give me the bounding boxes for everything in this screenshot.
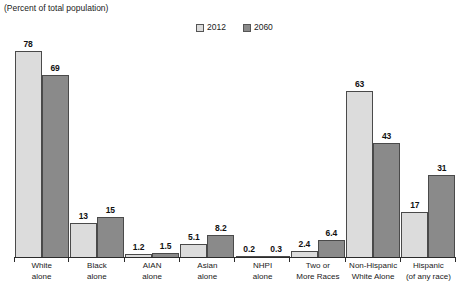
plot-area: 786913151.21.55.18.20.20.32.46.463431731 bbox=[14, 40, 456, 258]
bar-group: 1731 bbox=[401, 175, 456, 257]
bar-value-label: 43 bbox=[382, 132, 391, 141]
bar-value-label: 78 bbox=[23, 40, 32, 49]
bar-column: 5.1 bbox=[180, 244, 207, 257]
bar[interactable] bbox=[291, 251, 318, 257]
legend-item-2060: 2060 bbox=[243, 23, 273, 32]
bar-column: 8.2 bbox=[207, 235, 234, 257]
bar-column: 69 bbox=[42, 75, 69, 257]
bar-group: 1315 bbox=[69, 217, 124, 257]
bar[interactable] bbox=[318, 240, 345, 257]
bar[interactable] bbox=[401, 212, 428, 257]
bar-value-label: 1.5 bbox=[160, 242, 172, 251]
x-axis-label: Hispanic(of any race) bbox=[401, 261, 456, 282]
bar[interactable] bbox=[236, 256, 263, 258]
bar[interactable] bbox=[97, 217, 124, 257]
bar-column: 17 bbox=[401, 212, 428, 257]
x-axis-label: Whitealone bbox=[14, 261, 69, 282]
bar-column: 1.2 bbox=[125, 254, 152, 257]
bar-value-label: 8.2 bbox=[215, 224, 227, 233]
bar-group: 2.46.4 bbox=[290, 240, 345, 257]
bar-column: 0.3 bbox=[263, 256, 290, 258]
bar[interactable] bbox=[70, 223, 97, 257]
bar-value-label: 31 bbox=[437, 164, 446, 173]
bar-value-label: 17 bbox=[410, 201, 419, 210]
bar-value-label: 0.2 bbox=[243, 245, 255, 254]
bar-column: 63 bbox=[346, 91, 373, 257]
bar-column: 15 bbox=[97, 217, 124, 257]
bar-value-label: 5.1 bbox=[188, 233, 200, 242]
legend-swatch-2060 bbox=[243, 24, 251, 32]
bar[interactable] bbox=[373, 143, 400, 257]
bar-group: 6343 bbox=[346, 91, 401, 257]
x-axis-label: Non-HispanicWhite Alone bbox=[346, 261, 401, 282]
x-axis-label: NHPIalone bbox=[235, 261, 290, 282]
bar-column: 1.5 bbox=[152, 253, 179, 257]
bar-column: 2.4 bbox=[291, 251, 318, 257]
bar-column: 6.4 bbox=[318, 240, 345, 257]
bar[interactable] bbox=[15, 51, 42, 257]
x-axis-labels: WhitealoneBlackaloneAIANaloneAsianaloneN… bbox=[14, 261, 456, 289]
bar-value-label: 63 bbox=[355, 80, 364, 89]
legend-label-2060: 2060 bbox=[254, 23, 273, 32]
bar-value-label: 15 bbox=[106, 206, 115, 215]
legend-label-2012: 2012 bbox=[207, 23, 226, 32]
bar[interactable] bbox=[152, 253, 179, 257]
bar[interactable] bbox=[263, 256, 290, 258]
chart-legend: 2012 2060 bbox=[196, 23, 273, 32]
x-axis-label: Two orMore Races bbox=[290, 261, 345, 282]
bar[interactable] bbox=[180, 244, 207, 257]
x-axis-label: Blackalone bbox=[69, 261, 124, 282]
bar-group: 1.21.5 bbox=[125, 253, 180, 257]
bar-value-label: 1.2 bbox=[133, 243, 145, 252]
bar-group: 5.18.2 bbox=[180, 235, 235, 257]
bar-chart: (Percent of total population) 2012 2060 … bbox=[0, 0, 470, 290]
bar-column: 78 bbox=[15, 51, 42, 257]
x-axis-line bbox=[14, 257, 456, 258]
bar[interactable] bbox=[428, 175, 455, 257]
x-axis-label: Asianalone bbox=[180, 261, 235, 282]
bar[interactable] bbox=[125, 254, 152, 257]
bar-group: 7869 bbox=[14, 51, 69, 257]
bar-column: 43 bbox=[373, 143, 400, 257]
bar[interactable] bbox=[42, 75, 69, 257]
bar-column: 31 bbox=[428, 175, 455, 257]
bar-group: 0.20.3 bbox=[235, 256, 290, 258]
bar-value-label: 6.4 bbox=[325, 229, 337, 238]
bar-column: 0.2 bbox=[236, 256, 263, 258]
bar-value-label: 0.3 bbox=[270, 245, 282, 254]
bar-value-label: 69 bbox=[50, 64, 59, 73]
bar-value-label: 2.4 bbox=[298, 240, 310, 249]
bar[interactable] bbox=[207, 235, 234, 257]
x-axis-label: AIANalone bbox=[125, 261, 180, 282]
bar[interactable] bbox=[346, 91, 373, 257]
chart-title: (Percent of total population) bbox=[4, 3, 108, 13]
legend-swatch-2012 bbox=[196, 24, 204, 32]
bar-column: 13 bbox=[70, 223, 97, 257]
legend-item-2012: 2012 bbox=[196, 23, 226, 32]
bar-value-label: 13 bbox=[79, 212, 88, 221]
